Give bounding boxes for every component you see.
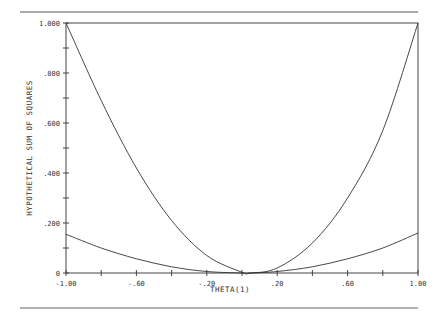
steep-curve-line (66, 23, 418, 274)
y-tick-label: 1.000 (39, 20, 60, 28)
x-tick-label: -1.00 (55, 280, 76, 288)
x-tick-label: -.60 (128, 280, 145, 288)
y-tick-label: .800 (43, 70, 60, 78)
chart: -1.00-.60-.20.20.601.00 0.200.400.600.80… (0, 0, 444, 315)
x-tick-label: .60 (341, 280, 354, 288)
x-tick-label: .20 (271, 280, 284, 288)
x-axis-title: THETA(1) (210, 285, 250, 294)
y-tick-label: 0 (56, 270, 60, 278)
y-tick-label: .600 (43, 120, 60, 128)
y-tick-label: .400 (43, 170, 60, 178)
plot-frame (66, 23, 418, 273)
x-tick-label: 1.00 (410, 280, 427, 288)
y-axis-title: HYPOTHETICAL SUM OF SQUARES (25, 80, 34, 215)
y-tick-label: .200 (43, 220, 60, 228)
y-axis-tick-labels: 0.200.400.600.8001.000 (39, 20, 60, 278)
shallow-curve-line (66, 233, 418, 273)
